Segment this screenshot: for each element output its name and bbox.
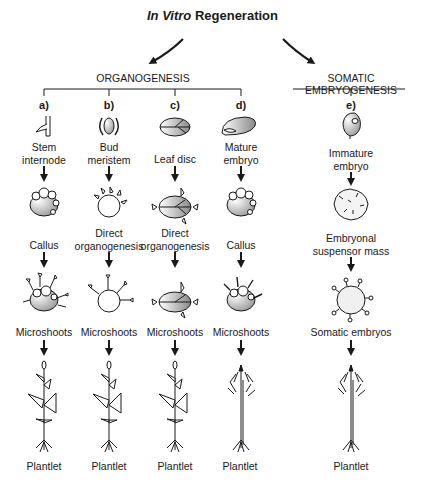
column-letter-b: b) [94,99,124,111]
immature-embryo-icon [343,113,360,139]
arrow-to-organogenesis [152,39,183,62]
microshoots-leaf-icon [152,282,198,318]
label-line: Direct [130,227,220,240]
label-line: Mature [201,141,281,154]
explant-label-d: Matureembryo [201,141,281,166]
stage2-label-e: Embryonalsuspensor mass [301,232,401,257]
column-letter-d: d) [226,99,256,111]
bud-meristem-icon [100,118,119,135]
final-label-d: Plantlet [200,460,280,473]
callus-icon-d [227,188,256,216]
callus-icon-a [30,188,59,216]
stage3-label-d: Microshoots [201,326,281,339]
microshoots-callus-icon-d [224,277,262,311]
embryonal-suspensor-mass-icon [334,189,368,220]
organogenesis-bracket [44,89,241,96]
final-label-e: Plantlet [311,460,391,473]
label-line: Bud [69,141,149,154]
direct-organogenesis-leaf-icon [152,188,198,224]
plantlet-icon-d [228,365,255,452]
column-letter-e: e) [336,99,366,111]
label-line: Immature [311,147,391,160]
somatic-embryogenesis-label: SOMATIC EMBRYOGENESIS [286,72,416,96]
label-line: embryo [201,154,281,167]
organogenesis-label: ORGANOGENESIS [83,72,203,84]
stem-internode-icon [36,116,50,136]
stage2-label-d: Callus [201,239,281,252]
column-letter-c: c) [160,99,190,111]
down-arrows-row3 [44,340,351,352]
label-line: embryo [311,160,391,173]
explant-label-e: Immatureembryo [311,147,391,172]
direct-organogenesis-bud-icon [94,187,127,217]
column-letter-a: a) [29,99,59,111]
down-arrows-row1 [44,166,351,182]
plantlet-icon-e [338,365,365,452]
plantlet-icon-c [159,361,187,452]
plantlet-icon-b [93,361,121,452]
label-line: suspensor mass [301,245,401,258]
microshoots-callus-icon-a [23,273,68,311]
plantlet-icon-a [28,361,56,452]
mature-embryo-icon [222,117,256,135]
somatic-embryos-icon [332,278,373,322]
microshoots-bud-icon [88,275,133,312]
leaf-disc-icon [160,118,190,136]
label-line: Embryonal [301,232,401,245]
arrow-to-somatic [283,39,312,62]
stage3-label-e: Somatic embryos [301,326,401,339]
